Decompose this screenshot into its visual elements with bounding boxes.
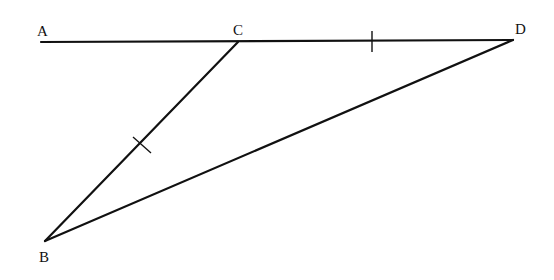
segment-CB <box>45 42 238 241</box>
label-C: C <box>233 22 243 38</box>
label-B: B <box>39 249 49 265</box>
label-A: A <box>37 23 48 39</box>
geometry-diagram: A C D B <box>0 0 554 280</box>
tick-mark-CB <box>133 137 151 153</box>
segment-BD <box>45 40 513 241</box>
label-D: D <box>515 21 526 37</box>
line-AD <box>41 40 513 42</box>
